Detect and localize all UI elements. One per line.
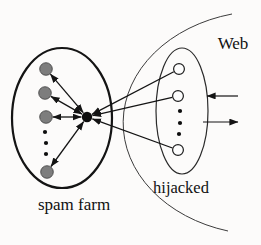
ellipsis-dot <box>178 109 182 113</box>
ellipsis-dot <box>178 121 182 125</box>
link-arrow <box>92 119 172 148</box>
spam-page-node <box>40 111 53 124</box>
link-arrow <box>50 74 83 112</box>
diagram-canvas: Web spam farm hijacked <box>0 0 261 245</box>
ellipsis-dot <box>43 130 47 134</box>
spam-page-node <box>41 166 54 179</box>
diagram-page: Web spam farm hijacked <box>0 0 261 245</box>
ellipsis-dot <box>44 152 48 156</box>
ellipsis-dot <box>177 132 181 136</box>
hijacked-label: hijacked <box>153 178 210 197</box>
hijacked-page-node <box>174 64 185 75</box>
target-page-node <box>82 112 92 122</box>
spam-page-node <box>40 63 53 76</box>
spam-farm-label: spam farm <box>38 195 110 214</box>
link-arrow <box>93 97 173 115</box>
spam-farm-ellipse <box>12 48 112 188</box>
web-label: Web <box>218 34 249 53</box>
ellipsis-dot <box>44 141 48 145</box>
link-arrow <box>51 122 84 167</box>
spam-page-node <box>39 87 52 100</box>
hijacked-page-node <box>173 145 184 156</box>
hijacked-page-node <box>173 91 184 102</box>
